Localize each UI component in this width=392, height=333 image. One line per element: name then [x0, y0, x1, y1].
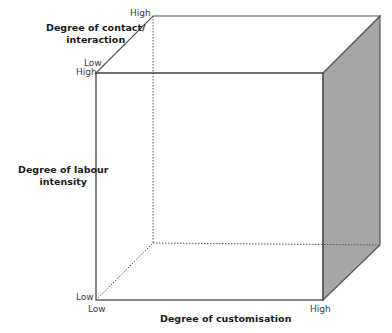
contact-high-label: High — [130, 8, 151, 19]
hidden-edge-diagonal — [96, 243, 153, 300]
labour-axis-title: Degree of labour intensity — [18, 164, 108, 188]
labour-title-line2: intensity — [18, 176, 108, 188]
labour-title-line1: Degree of labour — [18, 164, 108, 176]
customisation-axis-title: Degree of customisation — [160, 313, 291, 325]
contact-title-line1: Degree of contact/ — [46, 22, 146, 34]
customisation-high-label: High — [310, 304, 331, 315]
contact-title-line2: interaction — [46, 34, 146, 46]
labour-high-label: High — [76, 67, 97, 78]
cube-diagram: Degree of contact/ interaction High Low … — [0, 0, 392, 333]
contact-axis-title: Degree of contact/ interaction — [46, 22, 146, 46]
customisation-low-label: Low — [88, 304, 106, 315]
labour-low-label: Low — [76, 292, 94, 303]
